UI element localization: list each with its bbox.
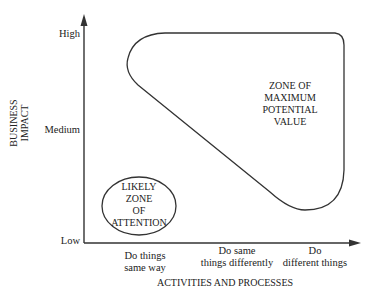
zone-label-line: LIKELY xyxy=(102,181,176,193)
x-tick-line: same way xyxy=(110,262,180,274)
x-tick-same-differently: Do same things differently xyxy=(192,245,282,269)
x-tick-line: different things xyxy=(270,257,360,269)
y-axis-title-line1: BUSINESS xyxy=(8,78,19,168)
y-axis-title-line2: IMPACT xyxy=(19,78,30,168)
y-tick-medium: Medium xyxy=(30,124,80,136)
zone-label-line: VALUE xyxy=(250,116,330,128)
max-value-zone-label: ZONE OF MAXIMUM POTENTIAL VALUE xyxy=(250,80,330,128)
x-axis-title: ACTIVITIES AND PROCESSES xyxy=(130,277,320,289)
y-tick-high: High xyxy=(40,28,80,40)
y-axis-title: BUSINESS IMPACT xyxy=(8,78,30,168)
x-tick-line: Do things xyxy=(110,250,180,262)
attention-zone-label: LIKELY ZONE OF ATTENTION xyxy=(102,181,176,229)
x-tick-line: Do xyxy=(270,245,360,257)
zone-label-line: ATTENTION xyxy=(102,217,176,229)
zone-label-line: ZONE xyxy=(102,193,176,205)
x-tick-line: Do same xyxy=(192,245,282,257)
zone-label-line: MAXIMUM xyxy=(250,92,330,104)
y-axis-arrow-icon xyxy=(81,14,88,26)
x-tick-line: things differently xyxy=(192,257,282,269)
zone-label-line: POTENTIAL xyxy=(250,104,330,116)
zone-label-line: OF xyxy=(102,205,176,217)
x-tick-same-way: Do things same way xyxy=(110,250,180,274)
y-tick-low: Low xyxy=(40,235,80,247)
zone-label-line: ZONE OF xyxy=(250,80,330,92)
x-tick-different-things: Do different things xyxy=(270,245,360,269)
